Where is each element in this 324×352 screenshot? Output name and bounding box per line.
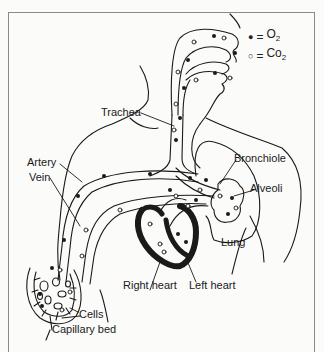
label-artery: Artery	[27, 157, 56, 168]
legend-co2-equals: =	[256, 49, 263, 63]
trachea-tube	[150, 115, 196, 176]
heart	[138, 199, 208, 267]
legend-o2-equals: =	[256, 30, 263, 44]
label-left-heart: Left heart	[189, 280, 235, 291]
legend-co2-label: Co	[266, 46, 281, 60]
label-trachea: Trachea	[101, 107, 141, 118]
label-vein: Vein	[29, 172, 50, 183]
open-dot-icon: ○	[248, 49, 253, 63]
legend-o2: ● = O2	[248, 27, 286, 46]
legend-co2-subscript: 2	[282, 54, 286, 63]
airway-head	[171, 14, 240, 124]
legend-co2: ○ = Co2	[248, 46, 286, 65]
legend: ● = O2 ○ = Co2	[248, 27, 286, 66]
filled-dot-icon: ●	[248, 30, 253, 44]
torso-outline	[58, 66, 301, 322]
legend-o2-label: O	[266, 27, 275, 41]
label-right-heart: Right heart	[123, 280, 177, 291]
label-capillary-bed: Capillary bed	[52, 324, 116, 335]
label-alveoli: Alveoli	[250, 183, 282, 194]
label-bronchiole: Bronchiole	[234, 153, 286, 164]
label-cells: Cells	[79, 309, 103, 320]
legend-o2-subscript: 2	[276, 34, 280, 43]
label-lung: Lung	[221, 237, 245, 248]
